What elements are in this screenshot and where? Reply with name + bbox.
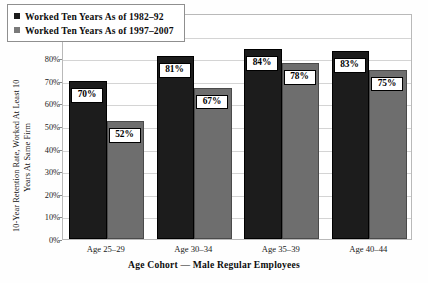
data-labels-layer: 70%52%81%67%84%78%83%75% (62, 14, 412, 240)
data-label: 75% (371, 77, 403, 92)
legend-swatch-icon (14, 13, 20, 19)
y-axis-tick-labels: 0%10%20%30%40%50%60%70%80%90%100% (30, 0, 60, 283)
data-label: 70% (71, 88, 103, 103)
y-axis-tick-label: 50% (32, 123, 60, 132)
data-label: 67% (196, 95, 228, 110)
x-axis-category-label: Age 30–34 (174, 244, 212, 254)
y-axis-tick-label: 0% (32, 236, 60, 245)
legend-item-1[interactable]: Worked Ten Years As of 1997–2007 (14, 23, 174, 37)
y-axis-tick-label: 40% (32, 145, 60, 154)
legend-label: Worked Ten Years As of 1982–92 (25, 11, 164, 22)
legend-label: Worked Ten Years As of 1997–2007 (25, 25, 174, 36)
legend-item-0[interactable]: Worked Ten Years As of 1982–92 (14, 9, 174, 23)
legend-swatch-icon (14, 27, 20, 33)
data-label: 78% (284, 70, 316, 85)
y-axis-tick-label: 70% (32, 77, 60, 86)
data-label: 83% (334, 58, 366, 73)
chart-legend: Worked Ten Years As of 1982–92Worked Ten… (7, 4, 185, 42)
data-label: 84% (246, 56, 278, 71)
y-axis-title-line-1: 10-Year Retention Rate, Worked At Least … (12, 79, 21, 232)
y-axis-tick-label: 60% (32, 100, 60, 109)
x-axis-title: Age Cohort — Male Regular Employees (0, 259, 428, 270)
y-axis-tick-label: 80% (32, 55, 60, 64)
data-label: 81% (159, 63, 191, 78)
x-axis-category-label: Age 25–29 (87, 244, 125, 254)
retention-rate-bar-chart: 10-Year Retention Rate, Worked At Least … (0, 0, 428, 283)
x-axis-category-label: Age 35–39 (262, 244, 300, 254)
y-axis-tick-label: 20% (32, 190, 60, 199)
x-axis-category-label: Age 40–44 (349, 244, 387, 254)
y-axis-tick-label: 30% (32, 168, 60, 177)
data-label: 52% (109, 128, 141, 143)
y-axis-tick-label: 10% (32, 213, 60, 222)
